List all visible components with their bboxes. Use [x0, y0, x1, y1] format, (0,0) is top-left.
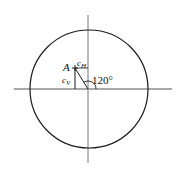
vertical-component-label: cV	[62, 75, 71, 87]
diagram-canvas: A cH cV 120°	[0, 0, 182, 174]
radius-line	[75, 68, 88, 89]
point-label: A	[62, 61, 70, 73]
circle-diagram: A cH cV 120°	[0, 0, 182, 174]
angle-label: 120°	[92, 74, 113, 86]
